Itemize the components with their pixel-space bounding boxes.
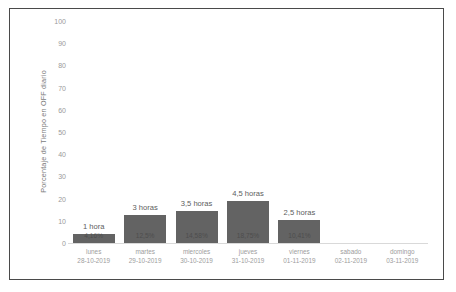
y-axis-tick: 40 [20, 151, 66, 158]
bar-slot [329, 21, 373, 243]
bar-slot: 12,5%3 horas [123, 21, 167, 243]
bar-annotation-label: 3,5 horas [166, 199, 228, 208]
x-axis-baseline [68, 243, 428, 244]
x-axis-label-day: domingo [371, 247, 433, 256]
y-axis-tick: 80 [20, 62, 66, 69]
y-axis-tick: 90 [20, 40, 66, 47]
y-axis-tick-column: 1009080706050403020100 [16, 21, 66, 243]
y-axis-tick: 60 [20, 106, 66, 113]
bar-annotation-label: 4,5 horas [217, 189, 279, 198]
y-axis-tick: 20 [20, 195, 66, 202]
chart-frame: Porcentaje de Tiempo en OFF diario 10090… [9, 8, 444, 280]
bar[interactable]: 4,16% [73, 234, 115, 243]
y-axis-tick: 100 [20, 18, 66, 25]
y-axis-tick: 30 [20, 173, 66, 180]
bar-annotation-label: 2,5 horas [268, 208, 330, 217]
bar-slot: 18,75%4,5 horas [226, 21, 270, 243]
bar[interactable]: 10,41% [278, 220, 320, 243]
x-axis-label: domingo03-11-2019 [371, 247, 433, 266]
bar-value-label: 10,41% [278, 232, 320, 239]
bar-slot: 14,58%3,5 horas [175, 21, 219, 243]
x-axis-label-date: 03-11-2019 [371, 256, 433, 265]
bar-value-label: 12,5% [124, 232, 166, 239]
y-axis-tick: 0 [20, 240, 66, 247]
chart-plot-wrapper: Porcentaje de Tiempo en OFF diario 10090… [10, 9, 443, 279]
bar-value-label: 4,16% [73, 232, 115, 239]
bar-slot: 10,41%2,5 horas [277, 21, 321, 243]
bar-value-label: 14,58% [176, 232, 218, 239]
bar[interactable]: 12,5% [124, 215, 166, 243]
bar[interactable]: 18,75% [227, 201, 269, 243]
bar-annotation-label: 1 hora [63, 222, 125, 231]
bar-value-label: 18,75% [227, 232, 269, 239]
y-axis-tick: 70 [20, 84, 66, 91]
bar-slot: 4,16%1 hora [72, 21, 116, 243]
bar-plot-area: 4,16%1 hora12,5%3 horas14,58%3,5 horas18… [68, 21, 428, 243]
y-axis-tick: 50 [20, 129, 66, 136]
y-axis-tick: 10 [20, 217, 66, 224]
bar[interactable]: 14,58% [176, 211, 218, 243]
bar-slot [380, 21, 424, 243]
